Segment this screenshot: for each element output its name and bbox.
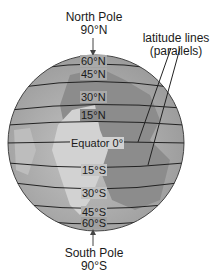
parallel-30s: 30°S: [81, 187, 107, 199]
south-pole-degree: 90°S: [60, 260, 128, 272]
callout-line1: latitude lines: [140, 32, 212, 44]
parallel-60s: 60°S: [81, 217, 107, 229]
callout-line2: (parallels): [140, 45, 212, 57]
parallel-15s: 15°S: [81, 164, 107, 176]
parallel-30n: 30°N: [80, 91, 107, 103]
parallel-15n: 15°N: [80, 109, 107, 121]
south-pole-label: South Pole: [60, 247, 128, 259]
parallel-45n: 45°N: [80, 68, 107, 80]
north-pole-label: North Pole: [62, 11, 126, 23]
parallel-60n: 60°N: [80, 55, 107, 67]
north-pole-degree: 90°N: [62, 24, 126, 36]
parallel-equator: Equator 0°: [70, 137, 124, 149]
